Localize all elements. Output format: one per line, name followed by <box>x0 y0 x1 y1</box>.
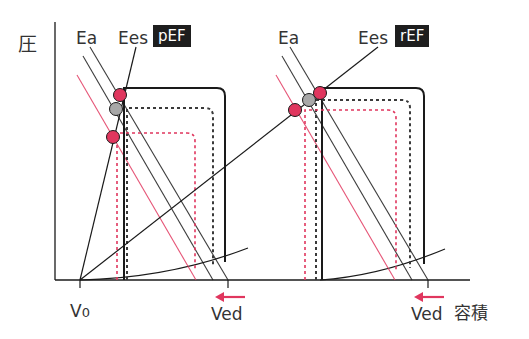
pef-badge: pEF <box>153 25 191 47</box>
end-systolic-point-red <box>114 89 127 102</box>
v0-label: V0 <box>70 303 90 320</box>
ved-shift-arrow-head <box>414 292 423 302</box>
ved-shift-arrow-head <box>215 292 224 302</box>
pv-loop-solid <box>124 88 225 280</box>
pv-loop-diagram <box>0 0 529 339</box>
ref-badge: rEF <box>395 25 429 47</box>
ees-label-ref: Ees <box>358 30 388 47</box>
end-systolic-point-gray <box>110 103 123 116</box>
ved-label-pef: Ved <box>211 306 243 323</box>
y-axis-label: 圧 <box>18 35 37 54</box>
ea-label-ref: Ea <box>278 30 299 47</box>
pv-loop-solid <box>322 88 424 280</box>
edpvr-curve-left <box>80 248 248 280</box>
edpvr-curve-right <box>320 249 445 280</box>
ea-line-2 <box>77 75 196 280</box>
end-systolic-point-red <box>289 104 302 117</box>
ea-label-pef: Ea <box>76 30 97 47</box>
x-axis-label: 容積 <box>454 305 488 322</box>
pv-loop-dash-red <box>305 110 396 280</box>
end-systolic-point-red <box>107 131 120 144</box>
ea-line-0 <box>90 47 228 280</box>
ees-label-pef: Ees <box>118 30 148 47</box>
ea-line-1 <box>83 56 213 280</box>
ved-label-ref: Ved <box>411 306 443 323</box>
panel-pef <box>77 47 245 302</box>
ea-line-1 <box>282 56 412 280</box>
end-systolic-point-gray <box>303 94 316 107</box>
ea-line-0 <box>290 47 428 280</box>
